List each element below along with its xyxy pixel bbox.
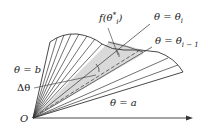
axis-arrow-icon [186, 116, 193, 121]
label-f-theta-star: f(θ*i) [99, 12, 122, 26]
label-theta-i-minus-1: θ = θi − 1 [155, 36, 199, 49]
label-theta-a: θ = a [110, 98, 137, 108]
label-theta-b: θ = b [14, 65, 41, 75]
label-origin: O [20, 114, 28, 124]
polar-area-diagram: f(θ*i) θ = θi θ = θi − 1 θ = b Δθ θ = a … [0, 0, 201, 134]
label-theta-i: θ = θi [154, 12, 183, 25]
label-delta-theta: Δθ [17, 83, 30, 93]
ray-theta-a [33, 72, 183, 118]
